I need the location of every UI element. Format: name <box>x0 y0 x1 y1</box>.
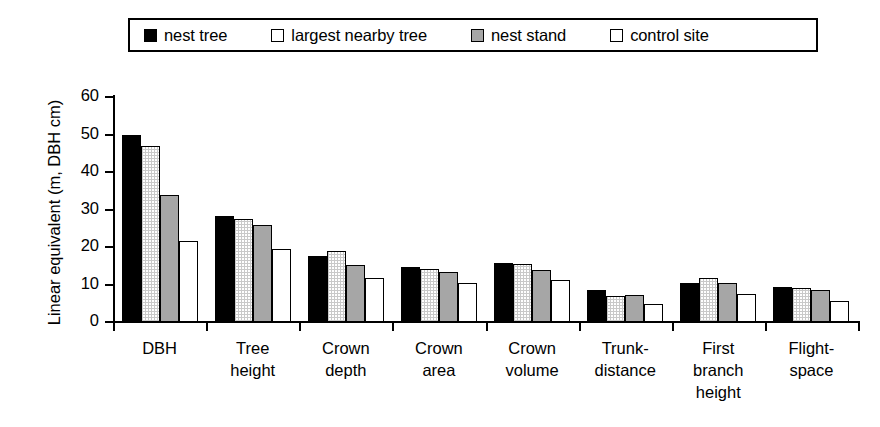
x-axis-group-label: Tree height <box>206 337 299 381</box>
bar-nest-stand <box>532 270 551 323</box>
bar-group: DBH <box>113 97 206 322</box>
bar-group-bars <box>486 97 579 322</box>
y-axis-tick-label: 50 <box>81 124 99 143</box>
bar-group: Crown depth <box>299 97 392 322</box>
bar-group: Trunk- distance <box>579 97 672 322</box>
bar-largest-nearby-tree <box>792 288 811 322</box>
bar-group: First branch height <box>672 97 765 322</box>
x-axis-group-label: Flight- space <box>765 337 858 381</box>
bar-nest-tree <box>494 263 513 322</box>
y-axis-tick: 50 <box>105 134 113 136</box>
legend-label: control site <box>630 27 709 43</box>
bar-nest-stand <box>811 290 830 322</box>
y-axis-tick-label: 60 <box>81 86 99 105</box>
bar-nest-stand <box>253 225 272 322</box>
bar-group-bars <box>672 97 765 322</box>
legend-item-nest-stand: nest stand <box>471 27 566 43</box>
legend-label: nest tree <box>164 27 227 43</box>
bar-largest-nearby-tree <box>141 146 160 322</box>
bar-control-site <box>365 278 384 322</box>
y-axis-tick: 0 <box>105 321 113 323</box>
x-axis-tick <box>392 322 394 331</box>
bar-group-bars <box>579 97 672 322</box>
x-axis-tick <box>206 322 208 331</box>
bar-nest-tree <box>401 267 420 323</box>
legend-item-largest-nearby-tree: largest nearby tree <box>271 27 427 43</box>
x-axis-group-label: DBH <box>113 337 206 359</box>
bar-control-site <box>551 280 570 322</box>
plot-area: 0102030405060DBHTree heightCrown depthCr… <box>113 97 858 322</box>
open-square-icon <box>271 29 284 42</box>
y-axis-tick: 30 <box>105 209 113 211</box>
y-axis-tick-label: 10 <box>81 274 99 293</box>
bar-group: Flight- space <box>765 97 858 322</box>
bar-group-bars <box>392 97 485 322</box>
y-axis-tick: 20 <box>105 246 113 248</box>
bar-nest-tree <box>773 287 792 322</box>
bar-nest-tree <box>122 135 141 323</box>
x-axis-group-label: Crown volume <box>486 337 579 381</box>
y-axis-tick-label: 20 <box>81 236 99 255</box>
bar-largest-nearby-tree <box>606 296 625 322</box>
gray-square-icon <box>471 29 484 42</box>
bar-nest-tree <box>215 216 234 322</box>
bar-group: Crown area <box>392 97 485 322</box>
y-axis-tick-label: 0 <box>90 311 99 330</box>
x-axis-tick <box>113 322 115 331</box>
bar-group-bars <box>206 97 299 322</box>
bar-nest-stand <box>439 272 458 322</box>
legend-item-control-site: control site <box>610 27 709 43</box>
x-axis-group-label: Trunk- distance <box>579 337 672 381</box>
y-axis-tick-label: 40 <box>81 161 99 180</box>
bar-largest-nearby-tree <box>327 251 346 322</box>
bar-nest-stand <box>160 195 179 322</box>
x-axis-tick <box>486 322 488 331</box>
bar-control-site <box>737 294 756 322</box>
bar-group: Tree height <box>206 97 299 322</box>
solid-black-square-icon <box>144 29 157 42</box>
legend-label: largest nearby tree <box>291 27 427 43</box>
x-axis-tick <box>858 322 860 331</box>
chart-legend: nest tree largest nearby tree nest stand… <box>128 18 818 52</box>
bar-group-bars <box>113 97 206 322</box>
bar-nest-stand <box>625 295 644 322</box>
x-axis-tick <box>579 322 581 331</box>
x-axis-group-label: Crown depth <box>299 337 392 381</box>
bar-largest-nearby-tree <box>699 278 718 322</box>
x-axis-tick <box>299 322 301 331</box>
bar-largest-nearby-tree <box>513 264 532 323</box>
open-square-icon <box>610 29 623 42</box>
y-axis-tick-label: 30 <box>81 199 99 218</box>
bar-control-site <box>644 304 663 322</box>
bar-largest-nearby-tree <box>420 269 439 322</box>
bar-group-bars <box>765 97 858 322</box>
y-axis-title: Linear equivalent (m, DBH cm) <box>45 83 64 343</box>
bar-nest-tree <box>680 283 699 322</box>
bar-nest-tree <box>308 256 327 322</box>
y-axis-tick: 10 <box>105 284 113 286</box>
y-axis-tick: 60 <box>105 96 113 98</box>
x-axis-group-label: First branch height <box>672 337 765 403</box>
y-axis-tick: 40 <box>105 171 113 173</box>
bar-nest-tree <box>587 290 606 322</box>
bar-chart-figure: nest tree largest nearby tree nest stand… <box>0 0 880 427</box>
bar-control-site <box>830 301 849 322</box>
legend-label: nest stand <box>491 27 566 43</box>
legend-item-nest-tree: nest tree <box>144 27 227 43</box>
bar-control-site <box>179 241 198 322</box>
x-axis-group-label: Crown area <box>392 337 485 381</box>
bar-control-site <box>458 283 477 322</box>
bar-nest-stand <box>346 265 365 322</box>
bar-largest-nearby-tree <box>234 219 253 323</box>
bar-nest-stand <box>718 283 737 322</box>
bar-group: Crown volume <box>486 97 579 322</box>
bar-control-site <box>272 249 291 322</box>
bar-group-bars <box>299 97 392 322</box>
x-axis-tick <box>765 322 767 331</box>
x-axis-tick <box>672 322 674 331</box>
